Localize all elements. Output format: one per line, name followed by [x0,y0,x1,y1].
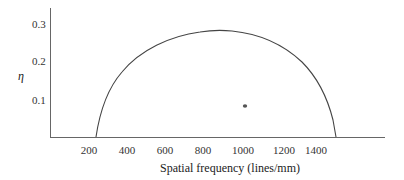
dot-marker [243,104,247,108]
x-tick-label: 400 [119,144,136,156]
x-tick-label: 200 [81,144,98,156]
x-axis-label: Spatial frequency (lines/mm) [160,161,300,175]
y-axis-label: η [18,69,24,83]
y-tick-label: 0.3 [32,18,46,30]
y-tick-label: 0.1 [32,94,46,106]
x-tick-labels: 200 400 600 800 1000 1200 1400 [81,144,328,156]
x-tick-label: 800 [195,144,212,156]
y-tick-label: 0.2 [32,55,46,67]
x-tick-label: 600 [157,144,174,156]
x-tick-label: 1000 [232,144,255,156]
x-tick-label: 1400 [305,144,328,156]
x-tick-label: 1200 [273,144,296,156]
y-tick-labels: 0.3 0.2 0.1 [32,18,46,106]
efficiency-curve [96,30,336,137]
efficiency-chart: 0.3 0.2 0.1 η 200 400 600 800 1000 1200 … [0,0,404,180]
